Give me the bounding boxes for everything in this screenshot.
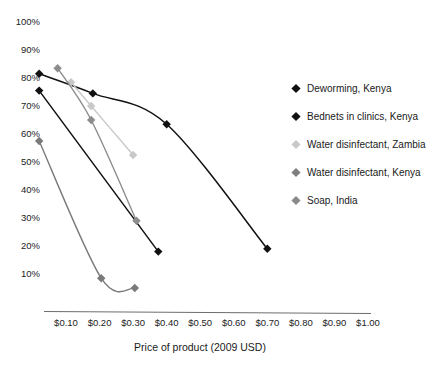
plot-area <box>35 64 272 292</box>
x-axis-title: Price of product (2009 USD) <box>134 341 266 353</box>
x-tick-label: $0.20 <box>88 317 112 328</box>
y-tick-label: 10% <box>21 268 41 279</box>
series-line <box>39 141 135 292</box>
series-water-disinfectant-zambia <box>67 78 137 159</box>
y-tick-label: 50% <box>21 156 41 167</box>
x-axis-tick-labels: $0.10$0.20$0.30$0.40$0.50$0.60$0.70$0.80… <box>54 317 380 328</box>
y-tick-label: 100% <box>16 16 41 27</box>
series-water-disinfectant-kenya <box>53 64 140 225</box>
legend-marker-icon <box>291 112 300 121</box>
y-tick-label: 20% <box>21 240 41 251</box>
x-tick-label: $0.60 <box>222 317 246 328</box>
y-tick-label: 70% <box>21 100 41 111</box>
data-point-marker <box>131 284 139 292</box>
legend-marker-icon <box>291 196 300 205</box>
x-tick-label: $0.10 <box>54 317 78 328</box>
cost-vs-price-chart: 100% 90% 80% 70% 60% 50% 40% 30% 20% 10%… <box>0 0 434 366</box>
data-point-marker <box>89 89 97 97</box>
legend-item-label: Bednets in clinics, Kenya <box>307 111 419 122</box>
x-tick-label: $0.70 <box>255 317 279 328</box>
series-deworming-kenya <box>35 70 272 253</box>
legend-marker-icon <box>291 168 300 177</box>
data-point-marker <box>53 64 61 72</box>
x-tick-label: $0.30 <box>121 317 145 328</box>
y-tick-label: 40% <box>21 184 41 195</box>
legend-marker-icon <box>291 140 300 149</box>
legend-item[interactable]: Deworming, Kenya <box>291 83 392 94</box>
y-tick-label: 90% <box>21 44 41 55</box>
legend-marker-icon <box>291 84 300 93</box>
y-tick-label: 60% <box>21 128 41 139</box>
x-tick-label: $0.80 <box>289 317 313 328</box>
legend-item[interactable]: Bednets in clinics, Kenya <box>291 111 418 122</box>
x-tick-label: $0.50 <box>188 317 212 328</box>
data-point-marker <box>97 274 105 282</box>
series-soap-india <box>35 137 139 292</box>
legend-item-label: Soap, India <box>307 195 358 206</box>
x-axis-line <box>44 312 371 314</box>
legend-item[interactable]: Soap, India <box>291 195 358 206</box>
chart-legend: Deworming, KenyaBednets in clinics, Keny… <box>291 83 426 206</box>
y-axis-tick-labels: 100% 90% 80% 70% 60% 50% 40% 30% 20% 10% <box>16 16 41 279</box>
legend-item[interactable]: Water disinfectant, Zambia <box>291 139 426 150</box>
data-point-marker <box>87 116 95 124</box>
y-tick-label: 30% <box>21 212 41 223</box>
legend-item-label: Deworming, Kenya <box>307 83 392 94</box>
legend-item[interactable]: Water disinfectant, Kenya <box>291 167 421 178</box>
series-bednets-in-clinics-kenya <box>35 86 163 255</box>
legend-item-label: Water disinfectant, Zambia <box>307 139 426 150</box>
legend-item-label: Water disinfectant, Kenya <box>307 167 421 178</box>
x-tick-label: $0.90 <box>323 317 347 328</box>
x-tick-label: $1.00 <box>356 317 380 328</box>
x-tick-label: $0.40 <box>155 317 179 328</box>
